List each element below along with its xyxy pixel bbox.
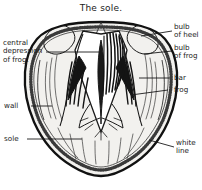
sole-anatomy-figure: The sole.: [0, 0, 202, 190]
hoof-sole-illustration: [0, 0, 202, 190]
label-sole: sole: [4, 135, 19, 143]
label-bulb-of-heel: bulb of heel: [174, 23, 199, 40]
label-bar: bar: [174, 74, 186, 82]
label-bulb-of-frog: bulb of frog: [174, 44, 198, 61]
label-wall: wall: [4, 102, 18, 110]
label-frog: frog: [174, 86, 188, 94]
label-central-depression-of-frog: central depression of frog.: [3, 39, 42, 64]
label-white-line: white line: [176, 139, 196, 156]
